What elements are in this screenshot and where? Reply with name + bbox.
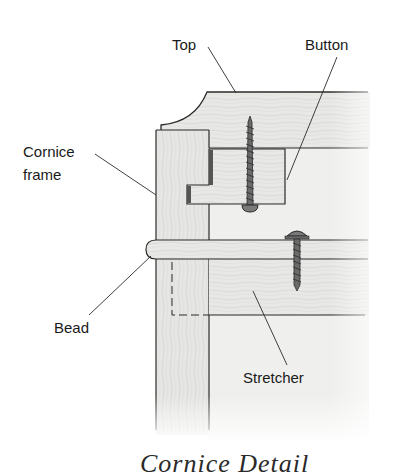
fade-right <box>330 85 395 445</box>
leader-cornice-frame <box>95 154 156 195</box>
label-top: Top <box>172 34 196 56</box>
label-cornice-frame-line1: Cornice <box>23 141 75 163</box>
cornice-frame <box>156 130 209 435</box>
label-button: Button <box>305 34 348 56</box>
label-stretcher: Stretcher <box>243 367 304 389</box>
diagram-caption: Cornice Detail <box>140 449 309 476</box>
label-bead: Bead <box>54 317 89 339</box>
label-cornice-frame-line2: frame <box>23 164 61 186</box>
fade-bottom <box>140 395 395 445</box>
leader-bead <box>89 256 151 315</box>
leader-top <box>208 47 236 93</box>
